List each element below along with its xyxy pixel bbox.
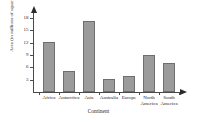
plot-area: 369121518 AfricaAntarcticaAsiaAustraliaE… [33, 12, 185, 92]
x-category-label-line: America [140, 101, 157, 107]
y-tick: 15 [30, 30, 34, 31]
y-tick-label: 15 [24, 26, 29, 33]
y-tick: 3 [30, 80, 34, 81]
bar [43, 42, 55, 92]
x-axis-arrow-icon [180, 89, 187, 95]
bar [83, 21, 95, 92]
x-axis-title: Continent [0, 108, 197, 114]
x-category-label: Australia [100, 95, 118, 101]
bar [103, 79, 115, 92]
x-category-label-line: Asia [84, 95, 93, 101]
x-tick [179, 92, 180, 95]
bar [63, 71, 75, 92]
y-tick-label: 3 [26, 76, 29, 83]
y-tick: 12 [30, 43, 34, 44]
y-tick-label: 6 [26, 63, 29, 70]
x-category-label-line: Europe [122, 95, 136, 101]
x-tick [39, 92, 40, 95]
x-category-label: Africa [43, 95, 56, 101]
x-category-label-line: Africa [43, 95, 56, 101]
x-category-label-line: Australia [100, 95, 118, 101]
bar [123, 76, 135, 92]
y-axis-arrow-icon [31, 6, 37, 13]
bar [163, 63, 175, 92]
y-tick: 9 [30, 55, 34, 56]
bar [143, 55, 155, 92]
y-tick: 6 [30, 67, 34, 68]
y-tick-label: 12 [24, 39, 29, 46]
y-tick-label: 9 [26, 51, 29, 58]
chart-figure: Area (in millions of square miles) 36912… [0, 0, 197, 122]
y-tick: 18 [30, 18, 34, 19]
y-tick-label: 18 [24, 14, 29, 21]
x-category-label: SouthAmerica [160, 95, 177, 107]
x-category-label-line: Antarctica [59, 95, 80, 101]
x-category-label: Asia [84, 95, 93, 101]
x-category-label-line: America [160, 101, 177, 107]
y-axis-title: Area (in millions of square miles) [9, 0, 19, 57]
x-category-label: Europe [122, 95, 136, 101]
x-tick [119, 92, 120, 95]
x-category-label: NorthAmerica [140, 95, 157, 107]
x-category-label: Antarctica [59, 95, 80, 101]
